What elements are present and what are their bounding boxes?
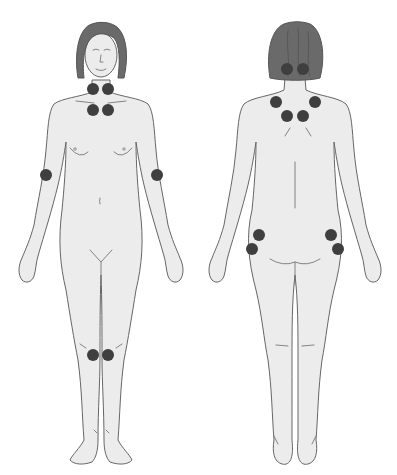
tender-point-front-chest-right xyxy=(102,104,114,116)
tender-point-back-shoulder-right xyxy=(309,96,321,108)
tender-point-back-hip-lower-left xyxy=(246,243,258,255)
tender-point-back-occiput-right xyxy=(297,63,309,75)
tender-point-back-shoulder-left xyxy=(270,96,282,108)
tender-point-front-neck-left xyxy=(87,83,99,95)
tender-point-front-chest-left xyxy=(87,104,99,116)
tender-point-front-knee-left xyxy=(87,349,99,361)
tender-point-back-upper-back-left xyxy=(281,110,293,122)
tender-point-front-elbow-right xyxy=(151,169,163,181)
tender-point-back-occiput-left xyxy=(281,63,293,75)
tender-point-back-upper-back-right xyxy=(297,110,309,122)
tender-point-front-knee-right xyxy=(102,349,114,361)
body-diagram xyxy=(0,0,397,475)
tender-point-front-elbow-left xyxy=(40,169,52,181)
back-figure xyxy=(0,0,397,475)
tender-point-back-hip-lower-right xyxy=(332,243,344,255)
tender-point-back-hip-upper-right xyxy=(325,229,337,241)
tender-point-front-neck-right xyxy=(102,83,114,95)
tender-point-back-hip-upper-left xyxy=(253,229,265,241)
